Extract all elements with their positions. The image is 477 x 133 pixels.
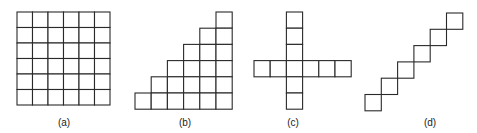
- grid-cell: [216, 12, 232, 28]
- grid-cell: [286, 12, 302, 28]
- grid-cell: [79, 43, 95, 59]
- grid-cell: [48, 12, 64, 28]
- grid-cell: [200, 28, 216, 44]
- grid-cell: [64, 90, 80, 106]
- grid-cell: [200, 93, 216, 109]
- grid-cell: [33, 59, 49, 75]
- figure-d-diagonal: [365, 13, 463, 111]
- grid-cell: [286, 93, 302, 109]
- label-c: (c): [287, 117, 299, 128]
- grid-cell: [381, 78, 397, 94]
- grid-cell: [286, 44, 302, 60]
- grid-cell: [64, 43, 80, 59]
- grid-cell: [216, 44, 232, 60]
- grid-cell: [64, 59, 80, 75]
- grid-cell: [33, 43, 49, 59]
- grid-cell: [135, 93, 151, 109]
- grid-cell: [216, 77, 232, 93]
- grid-cell: [95, 59, 111, 75]
- grid-cell: [64, 28, 80, 44]
- grid-cell: [79, 28, 95, 44]
- grid-cell: [365, 95, 381, 111]
- grid-cell: [414, 46, 430, 62]
- grid-cell: [17, 12, 33, 28]
- grid-cell: [48, 28, 64, 44]
- grid-cell: [200, 61, 216, 77]
- grid-cell: [167, 77, 183, 93]
- grid-cell: [17, 74, 33, 90]
- grid-cell: [167, 93, 183, 109]
- grid-cell: [33, 90, 49, 106]
- grid-cell: [48, 74, 64, 90]
- grid-cell: [17, 59, 33, 75]
- grid-cell: [95, 90, 111, 106]
- grid-cell: [216, 28, 232, 44]
- grid-cell: [286, 77, 302, 93]
- grid-cell: [270, 61, 286, 77]
- label-b: (b): [179, 117, 191, 128]
- grid-cell: [95, 74, 111, 90]
- grid-cell: [64, 12, 80, 28]
- grid-cell: [319, 61, 335, 77]
- grid-cell: [200, 44, 216, 60]
- grid-cell: [151, 93, 167, 109]
- grid-cell: [216, 61, 232, 77]
- grid-cell: [286, 61, 302, 77]
- grid-cell: [95, 28, 111, 44]
- grid-cell: [200, 77, 216, 93]
- figure-c-cross: [254, 12, 351, 109]
- grid-cell: [64, 74, 80, 90]
- grid-cell: [95, 43, 111, 59]
- grid-cell: [335, 61, 351, 77]
- grid-cell: [48, 90, 64, 106]
- grid-cell: [17, 90, 33, 106]
- figure-b-staircase: [135, 12, 232, 109]
- grid-cell: [79, 12, 95, 28]
- label-a: (a): [58, 117, 70, 128]
- grid-cell: [286, 28, 302, 44]
- grid-cell: [184, 93, 200, 109]
- grid-cell: [447, 13, 463, 29]
- grid-cell: [33, 12, 49, 28]
- grid-cell: [398, 62, 414, 78]
- figure-a-full-grid: [17, 12, 110, 105]
- grid-cell: [430, 29, 446, 45]
- grid-cell: [33, 74, 49, 90]
- grid-cell: [184, 77, 200, 93]
- label-d: (d): [424, 117, 436, 128]
- grid-cell: [48, 59, 64, 75]
- grid-cell: [17, 28, 33, 44]
- grid-cell: [17, 43, 33, 59]
- grid-cell: [167, 61, 183, 77]
- grid-cell: [79, 59, 95, 75]
- grid-cell: [79, 74, 95, 90]
- grid-cell: [95, 12, 111, 28]
- grid-cell: [151, 77, 167, 93]
- grid-cell: [254, 61, 270, 77]
- grid-cell: [216, 93, 232, 109]
- grid-cell: [184, 61, 200, 77]
- grid-cell: [33, 28, 49, 44]
- grid-cell: [303, 61, 319, 77]
- grid-cell: [184, 44, 200, 60]
- grid-cell: [48, 43, 64, 59]
- figure-canvas: (a) (b) (c) (d): [0, 0, 477, 133]
- grid-cell: [79, 90, 95, 106]
